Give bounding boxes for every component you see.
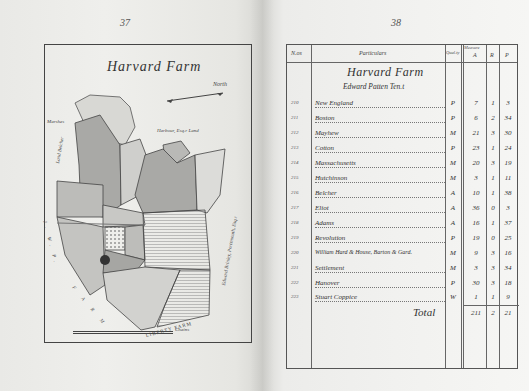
field-name: Settlement (315, 264, 344, 272)
field-name: Stuart Coppice (315, 293, 357, 301)
ledger-tenant: Edward Patten Ten.t (343, 82, 404, 91)
map-scale-bar (73, 331, 173, 334)
acres: 3 (469, 174, 483, 182)
leader-dots (315, 212, 445, 213)
roods: 3 (488, 264, 498, 272)
total-perches: 21 (501, 309, 515, 317)
table-row: 220 William Hard & House, Barton & Gard.… (287, 246, 519, 261)
acres: 21 (469, 129, 483, 137)
leader-dots (315, 272, 445, 273)
field-name: Eliot (315, 204, 329, 212)
field-name: Hanover (315, 279, 340, 287)
table-row: 213 Cotton P 23 1 24 (287, 141, 519, 156)
page-number-right: 38 (391, 17, 401, 28)
field-name: Belcher (315, 189, 337, 197)
acres: 36 (469, 204, 483, 212)
field-name: Adams (315, 219, 334, 227)
acres: 19 (469, 234, 483, 242)
acres: 9 (469, 249, 483, 257)
table-row: 216 Belcher A 10 1 38 (287, 186, 519, 201)
header-perches: P (505, 52, 509, 58)
perches: 25 (501, 234, 515, 242)
leader-dots (315, 227, 445, 228)
acres: 7 (469, 99, 483, 107)
left-page: 37 (0, 0, 262, 391)
scale-label: Chains (175, 327, 189, 332)
perches: 38 (501, 189, 515, 197)
book-gutter (250, 0, 274, 391)
map-parcels (45, 45, 253, 344)
total-row: Total 211 2 21 (287, 305, 519, 322)
acres: 16 (469, 219, 483, 227)
row-number: 213 (291, 145, 299, 150)
leader-dots (315, 287, 445, 288)
roods: 3 (488, 129, 498, 137)
field-name: Hutchinson (315, 174, 347, 182)
quality: W (448, 293, 458, 301)
perches: 19 (501, 159, 515, 167)
perches: 34 (501, 264, 515, 272)
quality: P (448, 279, 458, 287)
quality: A (448, 189, 458, 197)
roods: 3 (488, 249, 498, 257)
roods: 3 (488, 159, 498, 167)
quality: P (448, 114, 458, 122)
quality: M (448, 174, 458, 182)
row-number: 218 (291, 220, 299, 225)
ledger-table: N.os Particulars Qual.ty Measure A R P H… (286, 44, 518, 369)
perches: 18 (501, 279, 515, 287)
total-divider (463, 305, 519, 306)
quality: P (448, 144, 458, 152)
row-number: 212 (291, 130, 299, 135)
north-label: North (213, 81, 227, 87)
acres: 6 (469, 114, 483, 122)
label-top-right-land: Harbour, Esq.r Land (157, 128, 199, 133)
roods: 1 (488, 144, 498, 152)
table-row: 210 New England P 7 1 3 (287, 96, 519, 111)
perches: 3 (501, 99, 515, 107)
field-name: Cotton (315, 144, 334, 152)
roods: 0 (488, 204, 498, 212)
field-name: Massachusetts (315, 159, 356, 167)
header-quality: Qual.ty (446, 50, 459, 55)
north-arrow-icon (165, 91, 229, 103)
quality: A (448, 219, 458, 227)
perches: 37 (501, 219, 515, 227)
quality: P (448, 234, 458, 242)
header-measure: Measure (464, 45, 480, 50)
header-particulars: Particulars (359, 50, 386, 56)
leader-dots (315, 137, 445, 138)
leader-dots (315, 301, 445, 302)
label-marshes: Marshes (47, 119, 64, 124)
perches: 24 (501, 144, 515, 152)
row-number: 223 (291, 294, 299, 299)
quality: M (448, 264, 458, 272)
perches: 30 (501, 129, 515, 137)
roods: 1 (488, 293, 498, 301)
leader-dots (315, 197, 445, 198)
field-name: Revolution (315, 234, 345, 242)
roods: 1 (488, 99, 498, 107)
table-row: 222 Hanover P 30 3 18 (287, 276, 519, 291)
acres: 23 (469, 144, 483, 152)
quality: M (448, 129, 458, 137)
acres: 20 (469, 159, 483, 167)
roods: 0 (488, 234, 498, 242)
table-row: 221 Settlement M 3 3 34 (287, 261, 519, 276)
map-title: Harvard Farm (107, 59, 201, 75)
table-row: 217 Eliot A 36 0 3 (287, 201, 519, 216)
acres: 1 (469, 293, 483, 301)
row-number: 214 (291, 160, 299, 165)
header-acres: A (473, 52, 477, 58)
field-name: William Hard & House, Barton & Gard. (315, 249, 412, 255)
table-row: 211 Boston P 6 2 34 (287, 111, 519, 126)
row-number: 221 (291, 265, 299, 270)
roods: 3 (488, 279, 498, 287)
acres: 10 (469, 189, 483, 197)
leader-dots (315, 122, 445, 123)
row-number: 211 (291, 115, 298, 120)
acres: 30 (469, 279, 483, 287)
field-name: Boston (315, 114, 334, 122)
quality: P (448, 99, 458, 107)
quality: A (448, 204, 458, 212)
